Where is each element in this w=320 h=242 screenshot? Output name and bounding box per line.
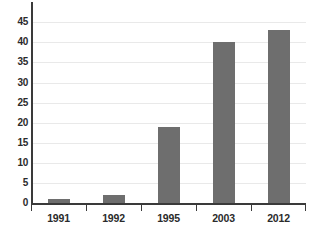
x-tick-1 — [86, 205, 87, 211]
y-tick-label-5: 5 — [4, 178, 28, 188]
y-tick-label-15: 15 — [4, 138, 28, 148]
bars-layer — [31, 2, 306, 203]
y-tick-label-40: 40 — [4, 37, 28, 47]
bar-2003 — [213, 42, 235, 203]
y-tick-label-0: 0 — [4, 198, 28, 208]
bar-2012 — [268, 30, 290, 203]
x-tick-label-1995: 1995 — [141, 213, 196, 224]
x-tick-5 — [305, 205, 306, 211]
bar-1992 — [103, 195, 125, 203]
x-tick-label-1992: 1992 — [86, 213, 141, 224]
y-tick-label-30: 30 — [4, 78, 28, 88]
x-tick-label-2012: 2012 — [251, 213, 306, 224]
y-tick-label-45: 45 — [4, 17, 28, 27]
x-tick-label-2003: 2003 — [196, 213, 251, 224]
bar-chart: 45 40 35 30 25 20 15 10 5 0 1991 1992 19… — [0, 0, 320, 242]
y-tick-label-35: 35 — [4, 57, 28, 67]
x-tick-4 — [251, 205, 252, 211]
x-tick-label-1991: 1991 — [31, 213, 86, 224]
x-tick-2 — [141, 205, 142, 211]
x-tick-3 — [196, 205, 197, 211]
y-tick-label-25: 25 — [4, 98, 28, 108]
bar-1995 — [158, 127, 180, 203]
x-tick-0 — [31, 205, 32, 211]
y-axis-line — [31, 2, 33, 204]
y-tick-label-10: 10 — [4, 158, 28, 168]
x-axis-line — [31, 203, 306, 205]
y-tick-label-20: 20 — [4, 118, 28, 128]
y-axis-labels: 45 40 35 30 25 20 15 10 5 0 — [0, 0, 28, 242]
caption-strip — [8, 231, 312, 239]
